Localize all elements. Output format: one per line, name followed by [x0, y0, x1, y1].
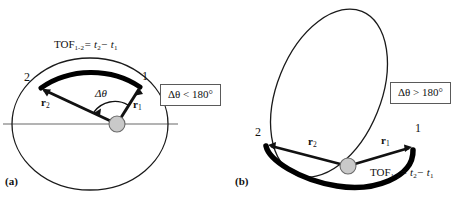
condition-box-a: Δθ < 180°	[160, 84, 221, 106]
tof-minus-a: − t	[101, 38, 114, 50]
r2-sub-b: 2	[313, 140, 317, 149]
tof-sub-b: 1-2	[391, 172, 400, 180]
point-1-label-b: 1	[415, 122, 421, 134]
r1-label-a: r1	[133, 99, 142, 110]
tof-t1-sub-b: 1	[430, 172, 434, 180]
radius-vector-r1	[348, 148, 409, 166]
r2-sub-a: 2	[46, 101, 50, 110]
tof-text-b: TOF	[370, 166, 391, 178]
tof-text-a: TOF	[54, 38, 75, 50]
delta-theta-label-a: Δθ	[95, 88, 107, 99]
tof-sub-a: 1-2	[75, 44, 84, 52]
r1-sub-a: 1	[138, 103, 142, 112]
lambert-transfer-figure: TOF1-2= t2− t1 1 2 r1 r2 Δθ Δθ < 180° (a…	[0, 0, 466, 198]
panel-a: TOF1-2= t2− t1 1 2 r1 r2 Δθ Δθ < 180° (a…	[0, 0, 233, 198]
tof-label-a: TOF1-2= t2− t1	[54, 39, 117, 50]
r1-label-b: r1	[381, 135, 390, 146]
tof-t2-sub-a: 2	[97, 44, 101, 52]
point-2-label-b: 2	[255, 126, 261, 138]
tof-t2-sub-b: 2	[413, 172, 417, 180]
tof-label-b: TOF1-2= t2− t1	[370, 167, 433, 178]
condition-box-b: Δθ > 180°	[390, 82, 451, 104]
r2-label-a: r2	[41, 97, 50, 108]
r2-label-b: r2	[308, 136, 317, 147]
tof-minus-b: − t	[417, 166, 430, 178]
focus-body	[109, 116, 125, 132]
point-1-label-a: 1	[142, 70, 148, 82]
r1-sub-b: 1	[386, 139, 390, 148]
point-2-label-a: 2	[24, 71, 30, 83]
panel-tag-a: (a)	[5, 176, 18, 187]
transfer-arc	[41, 73, 140, 88]
panel-b: 1 2 r1 r2 TOF1-2= t2− t1 Δθ > 180° (b)	[233, 0, 466, 198]
tof-t1-sub-a: 1	[114, 44, 118, 52]
orbit-ellipse	[248, 0, 410, 194]
tof-equals-b: = t	[400, 166, 413, 178]
focus-body	[340, 158, 356, 174]
tof-equals-a: = t	[84, 38, 97, 50]
panel-tag-b: (b)	[235, 176, 248, 187]
